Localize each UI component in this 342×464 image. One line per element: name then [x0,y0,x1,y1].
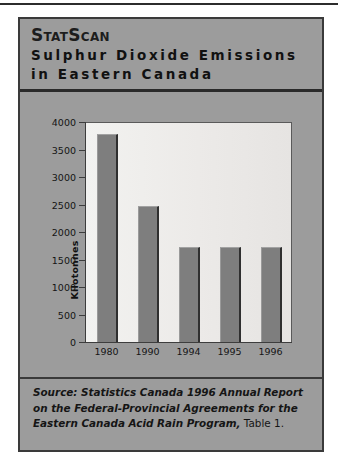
bar [220,247,241,343]
y-axis-tick [79,177,86,178]
y-axis-tick [79,342,86,343]
figure-title-block: StatScan Sulphur Dioxide Emissions in Ea… [20,19,322,89]
source-note: Source: Statistics Canada 1996 Annual Re… [33,385,309,432]
plot-area [86,122,292,343]
figure-subtitle-line-2: in Eastern Canada [31,66,313,83]
y-axis-tick [79,122,86,123]
y-axis-tick-label: 1500 [36,256,76,266]
x-axis-tick-label: 1994 [168,346,210,357]
y-axis-tick [79,260,86,261]
bar [261,247,282,343]
source-note-plain: Table 1. [241,417,284,429]
bar [179,247,200,343]
y-axis-tick-label: 500 [36,311,76,321]
y-axis-tick [79,315,86,316]
y-axis-tick [79,232,86,233]
y-axis-tick [79,150,86,151]
x-axis-tick-label: 1995 [209,346,251,357]
x-axis-tick-label: 1980 [86,346,128,357]
y-axis-tick [79,287,86,288]
y-axis-tick-label: 4000 [36,118,76,128]
x-axis-line [85,342,292,343]
figure-subtitle-line-1: Sulphur Dioxide Emissions [31,47,313,64]
figure-page: StatScan Sulphur Dioxide Emissions in Ea… [0,0,342,464]
y-axis-tick-label: 0 [36,338,76,348]
y-axis-title: Kilotonnes [69,225,80,315]
y-axis-tick [79,205,86,206]
y-axis-tick-label: 3500 [36,146,76,156]
bar [97,134,118,343]
bar [138,206,159,344]
x-axis-tick-label: 1990 [127,346,169,357]
source-divider [20,377,322,379]
y-axis-tick-label: 2500 [36,201,76,211]
page-top-rule [0,3,338,5]
y-axis-tick-label: 1000 [36,283,76,293]
brand-title: StatScan [31,26,322,45]
statscan-figure-panel: StatScan Sulphur Dioxide Emissions in Ea… [18,17,324,452]
y-axis-tick-label: 2000 [36,228,76,238]
y-axis-tick-label: 3000 [36,173,76,183]
bar-chart: Kilotonnes 40003500300025002000150010005… [20,92,322,377]
x-axis-tick-label: 1996 [250,346,292,357]
